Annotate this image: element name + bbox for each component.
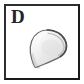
- panel-frame: D: [4, 4, 80, 80]
- specimen-illustration: [6, 6, 78, 78]
- shell-valve-icon: [6, 6, 78, 78]
- shell-muscle-scar: [41, 40, 60, 56]
- figure-panel: D: [0, 0, 84, 84]
